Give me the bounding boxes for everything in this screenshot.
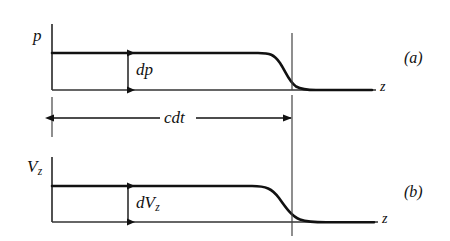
panel-a-y-axis-label: p	[33, 27, 42, 44]
panel-a-label: (a)	[404, 50, 423, 66]
panel-b-group	[52, 150, 378, 236]
panel-b-delta-label-base: dV	[136, 193, 155, 212]
panel-a-delta-label: dp	[136, 61, 153, 78]
panel-b-delta-label: dVz	[136, 194, 160, 214]
panel-b-y-axis-label: Vz	[27, 158, 42, 178]
panel-b-y-axis-label-base: V	[27, 157, 37, 176]
panel-b-y-axis-label-subscript: z	[38, 165, 43, 178]
panel-a-group	[52, 24, 376, 90]
figure-container: p dp z (a) cdt Vz dVz z (b)	[0, 0, 450, 241]
figure-canvas	[0, 0, 450, 241]
span-label: cdt	[160, 109, 189, 126]
panel-b-label: (b)	[404, 184, 423, 200]
panel-b-delta-label-subscript: z	[155, 201, 160, 214]
panel-b-x-axis-label: z	[382, 212, 387, 226]
panel-a-x-axis-label: z	[380, 80, 385, 94]
panel-b-curve	[52, 186, 374, 222]
panel-a-curve	[52, 53, 372, 90]
